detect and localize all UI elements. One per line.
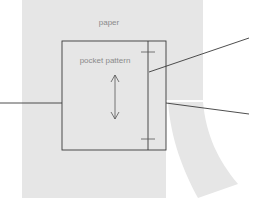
paper-label: paper xyxy=(99,18,120,27)
pocket-pattern-label: pocket pattern xyxy=(80,56,131,65)
paper-strip xyxy=(168,102,238,198)
pocket-pattern-diagram: paper pocket pattern xyxy=(0,0,253,214)
paper-sheet xyxy=(22,0,203,198)
